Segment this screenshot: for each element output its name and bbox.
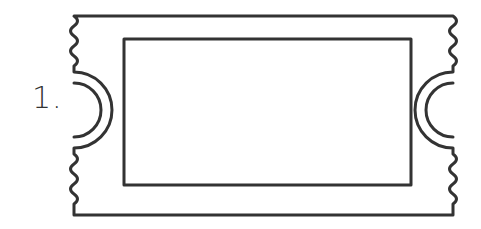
left-notch-inner-arc: [74, 83, 101, 137]
inner-rectangle: [124, 39, 411, 185]
right-notch-inner-arc: [426, 83, 453, 137]
ticket-outline-figure: [0, 0, 481, 229]
